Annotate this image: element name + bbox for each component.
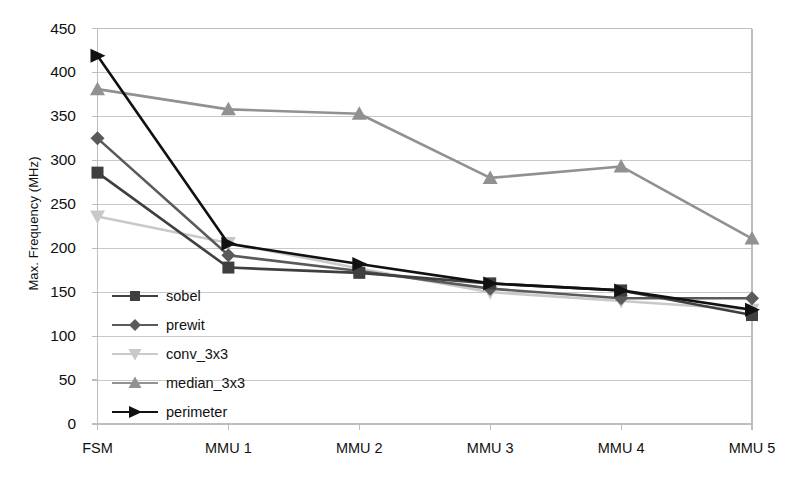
y-tick-label: 250 — [0, 197, 86, 213]
y-tick-label: 150 — [0, 284, 86, 300]
y-tick-label: 200 — [0, 240, 86, 256]
legend-item-perimeter[interactable]: perimeter — [112, 403, 227, 421]
y-tick-label: 100 — [0, 328, 86, 344]
legend-swatch-prewit-icon — [112, 317, 158, 333]
legend-marker-square-icon — [126, 288, 144, 304]
legend-label: conv_3x3 — [166, 346, 228, 362]
legend-label: sobel — [166, 288, 201, 304]
y-tick-label: 0 — [0, 416, 86, 432]
legend-item-conv_3x3[interactable]: conv_3x3 — [112, 345, 228, 363]
legend-marker-triangle-up-icon — [126, 375, 144, 391]
data-point-marker — [130, 291, 140, 301]
legend-item-median_3x3[interactable]: median_3x3 — [112, 374, 245, 392]
data-point-marker — [129, 319, 141, 331]
x-tick-label: MMU 2 — [336, 440, 383, 456]
data-point-marker — [745, 231, 760, 245]
legend-marker-diamond-icon — [126, 317, 144, 333]
data-point-marker — [745, 291, 759, 305]
data-point-marker — [129, 349, 142, 361]
series-line — [98, 56, 753, 310]
legend-swatch-perimeter-icon — [112, 404, 158, 420]
y-tick-label: 50 — [0, 372, 86, 388]
y-tick-label: 400 — [0, 65, 86, 81]
legend-label: perimeter — [166, 404, 227, 420]
y-tick-label: 350 — [0, 109, 86, 125]
data-point-marker — [129, 377, 142, 389]
x-tick-label: MMU 1 — [205, 440, 252, 456]
x-tick-label: MMU 4 — [598, 440, 645, 456]
x-tick-label: MMU 3 — [467, 440, 514, 456]
legend-swatch-sobel-icon — [112, 288, 158, 304]
legend-swatch-median_3x3-icon — [112, 375, 158, 391]
y-tick-label: 450 — [0, 21, 86, 37]
legend-marker-arrow-right-icon — [126, 404, 144, 420]
data-point-marker — [222, 262, 234, 274]
data-point-marker — [90, 82, 105, 96]
data-point-marker — [92, 167, 104, 179]
legend-label: median_3x3 — [166, 375, 245, 391]
series-line — [98, 89, 753, 238]
x-tick-label: FSM — [82, 440, 113, 456]
legend-item-prewit[interactable]: prewit — [112, 316, 205, 334]
data-point-marker — [129, 406, 142, 418]
x-tick-label: MMU 5 — [729, 440, 776, 456]
series-perimeter — [91, 49, 761, 317]
legend-label: prewit — [166, 317, 205, 333]
legend-marker-triangle-down-icon — [126, 346, 144, 362]
y-tick-label: 300 — [0, 153, 86, 169]
legend-swatch-conv_3x3-icon — [112, 346, 158, 362]
line-chart: Max. Frequency (MHz) 0501001502002503003… — [0, 0, 796, 481]
legend-item-sobel[interactable]: sobel — [112, 287, 201, 305]
